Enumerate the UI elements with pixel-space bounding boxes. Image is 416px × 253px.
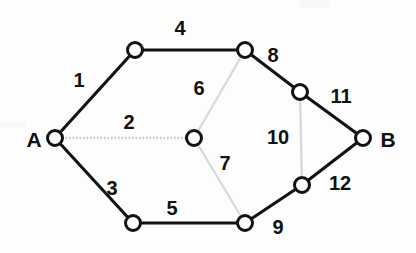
- edge-label-5: 5: [166, 198, 177, 218]
- node-label-B: B: [380, 129, 395, 150]
- edge-label-8: 8: [267, 45, 278, 65]
- edge-label-9: 9: [272, 217, 283, 237]
- graph-node-n2[interactable]: [238, 43, 253, 58]
- edge-label-12: 12: [329, 173, 351, 193]
- graph-node-n6[interactable]: [293, 85, 308, 100]
- graph-edge-7: [194, 138, 245, 223]
- graph-node-n7[interactable]: [295, 178, 310, 193]
- edge-label-4: 4: [174, 18, 185, 38]
- graph-node-B[interactable]: [356, 131, 371, 146]
- graph-node-n5[interactable]: [238, 216, 253, 231]
- node-layer: [48, 43, 371, 231]
- edge-label-7: 7: [219, 153, 230, 173]
- graph-edge-10: [300, 92, 302, 185]
- edge-label-6: 6: [193, 78, 204, 98]
- edge-label-11: 11: [330, 86, 351, 106]
- edge-label-3: 3: [106, 178, 117, 198]
- edge-layer: [55, 50, 363, 223]
- edge-label-10: 10: [267, 127, 289, 147]
- graph-svg: [0, 0, 416, 253]
- graph-node-n3[interactable]: [187, 131, 202, 146]
- graph-node-n4[interactable]: [126, 216, 141, 231]
- edge-label-1: 1: [73, 70, 84, 90]
- graph-node-A[interactable]: [48, 131, 63, 146]
- graph-edge-3: [55, 138, 133, 223]
- edge-label-2: 2: [123, 112, 134, 132]
- graph-diagram-canvas: 123456789101112AB: [0, 0, 416, 253]
- graph-node-n1[interactable]: [128, 43, 143, 58]
- node-label-A: A: [26, 129, 41, 150]
